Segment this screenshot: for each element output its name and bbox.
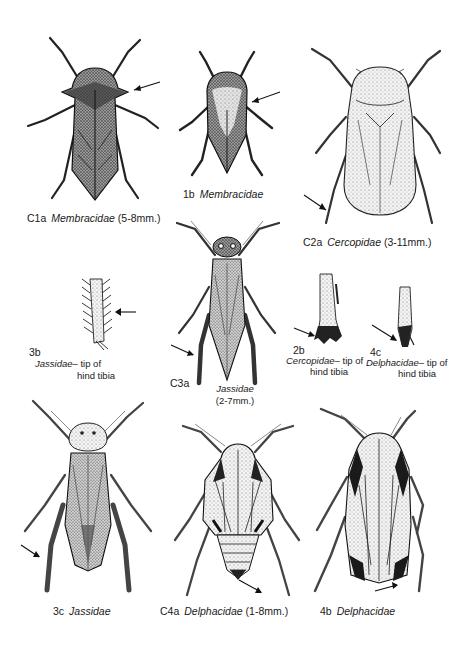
membracidae-dorsal-illustration [20, 30, 170, 205]
label-c1a: C1aMembracidae (5-8mm.) [27, 212, 160, 224]
label-1b: 1bMembracidae [183, 188, 263, 200]
delphacidae-dorsal-illustration-4b [305, 405, 455, 600]
label-4b: 4bDelphacidae [320, 605, 395, 617]
figure-c3a-jassidae [165, 215, 290, 385]
figure-c4a-delphacidae [165, 420, 310, 600]
delphacidae-hind-tibia-illustration [370, 285, 430, 350]
jassidae-dorsal-illustration [165, 215, 290, 385]
jassidae-hind-tibia-illustration [60, 275, 140, 350]
label-c2a: C2aCercopidae (3-11mm.) [303, 236, 432, 248]
label-c3a-code: C3a [170, 377, 189, 389]
delphacidae-dorsal-illustration [165, 420, 310, 600]
label-3b: Jassidae– tip of [35, 358, 101, 370]
figure-4b-delphacidae [305, 405, 455, 600]
label-3b-code: 3b [29, 346, 41, 358]
label-3c: 3cJassidae [53, 605, 111, 617]
label-c4a: C4aDelphacidae (1-8mm.) [160, 605, 288, 617]
label-c3a-family: Jassidae [210, 383, 260, 394]
label-3b-line2: hind tibia [77, 370, 115, 381]
figure-c2a-cercopidae [300, 45, 460, 230]
figure-1b-membracidae [172, 50, 282, 180]
figure-4c-delphacidae-tibia [370, 285, 430, 350]
figure-3b-jassidae-tibia [60, 275, 140, 350]
figure-c1a-membracidae [20, 30, 170, 205]
label-c3a-size: (2-7mm.) [210, 395, 260, 406]
cercopidae-hind-tibia-illustration [290, 270, 360, 345]
cercopidae-dorsal-illustration [300, 45, 460, 230]
figure-3c-jassidae [15, 395, 160, 595]
figure-2b-cercopidae-tibia [290, 270, 360, 345]
label-4c-line2: hind tibia [398, 368, 436, 379]
jassidae-dorsal-illustration-3c [15, 395, 160, 595]
label-2b-line2: hind tibia [310, 366, 348, 377]
membracidae-dorsal-illustration-b [172, 50, 282, 180]
